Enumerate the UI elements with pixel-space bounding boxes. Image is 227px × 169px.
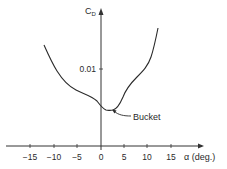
y-tick-label: 0.01 [79, 64, 96, 74]
x-axis: −15 −10 −5 0 5 10 15 α (deg.) [6, 144, 215, 163]
bucket-annotation: Bucket [112, 110, 161, 123]
x-tick-label: −5 [72, 152, 82, 162]
y-axis-arrow-icon [99, 8, 104, 15]
y-axis-label: CD [85, 6, 97, 17]
x-tick-label: 0 [99, 152, 104, 162]
drag-polar-chart: −15 −10 −5 0 5 10 15 α (deg.) 0.01 CD Bu… [0, 0, 227, 169]
y-axis: 0.01 CD [79, 6, 103, 150]
x-axis-label: α (deg.) [184, 152, 215, 162]
x-tick-label: −15 [23, 152, 38, 162]
x-axis-arrow-icon [198, 144, 204, 149]
bucket-label: Bucket [133, 112, 161, 122]
x-tick-label: −10 [47, 152, 62, 162]
x-tick-label: 10 [142, 152, 152, 162]
x-tick-label: 15 [166, 152, 176, 162]
x-tick-label: 5 [122, 152, 127, 162]
